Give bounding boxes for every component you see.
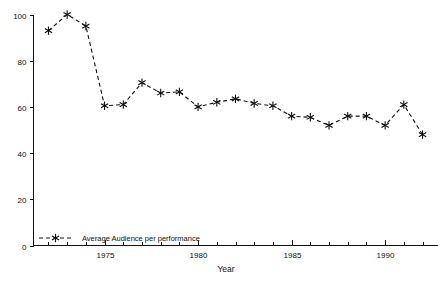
data-point-marker [269,102,276,110]
y-axis-tick-labels: 020406080100 [13,12,27,252]
legend-label: Average Audience per performance [82,234,200,243]
x-tick-label: 1990 [377,251,395,260]
y-tick-label: 0 [22,243,27,252]
x-axis-title: Year [217,264,234,274]
data-point-marker [194,103,201,111]
series-markers-average-audience [45,10,426,139]
x-axis-tick-labels: 1975198019851990 [97,251,395,260]
x-tick-label: 1985 [284,251,302,260]
y-axis-ticks [30,16,34,247]
data-point-marker [400,100,407,108]
data-point-marker [138,78,145,86]
data-point-marker [120,100,127,108]
data-point-marker [82,22,89,30]
data-point-marker [325,121,332,129]
legend-asterisk-icon [52,234,59,242]
y-tick-label: 60 [18,104,27,113]
legend-sample-marker-icon [52,234,59,242]
data-point-marker [157,89,164,97]
y-tick-label: 20 [18,196,27,205]
data-point-marker [251,99,258,107]
data-point-marker [45,26,52,34]
data-point-marker [64,10,71,18]
x-tick-label: 1975 [97,251,115,260]
y-tick-label: 40 [18,150,27,159]
y-axis: 020406080100 [13,12,33,252]
x-tick-label: 1980 [190,251,208,260]
y-tick-label: 100 [13,12,27,21]
y-tick-label: 80 [18,58,27,67]
data-point-marker [101,102,108,110]
plot-area [45,10,426,139]
data-point-marker [288,112,295,120]
legend: Average Audience per performance [39,234,200,243]
line-chart: 020406080100 1975198019851990 Average Au… [0,0,438,287]
chart-container: 020406080100 1975198019851990 Average Au… [0,0,438,287]
data-point-marker [419,130,426,138]
data-point-marker [307,113,314,121]
